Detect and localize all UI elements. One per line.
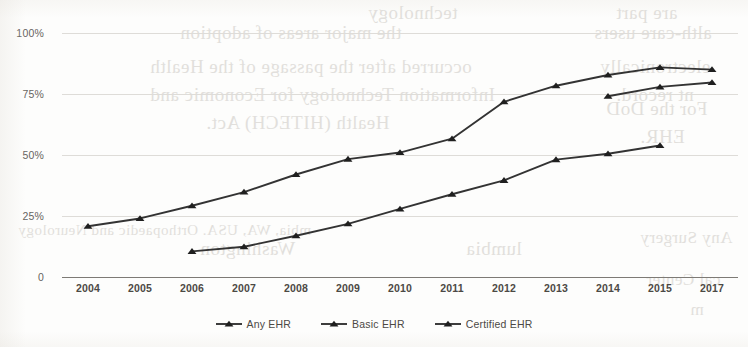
legend-label: Any EHR [247,318,292,330]
legend-label: Basic EHR [352,318,405,330]
legend-marker-icon [435,318,461,330]
legend-label: Certified EHR [466,318,533,330]
legend-item: Certified EHR [435,318,533,330]
series-certified-ehr [604,79,717,98]
legend-marker-icon [321,318,347,330]
series-line [88,67,712,226]
series-line [192,145,660,251]
line-chart: 025%50%75%100% 2004200520062007200820092… [0,0,748,347]
legend-marker-icon [216,318,242,330]
series-layer [0,0,748,347]
legend-item: Any EHR [216,318,292,330]
series-basic-ehr [188,142,665,254]
chart-legend: Any EHRBasic EHRCertified EHR [0,318,748,330]
chart-screenshot: technologythe major areas of adoptionocc… [0,0,748,347]
series-any-ehr [84,64,717,229]
legend-item: Basic EHR [321,318,405,330]
